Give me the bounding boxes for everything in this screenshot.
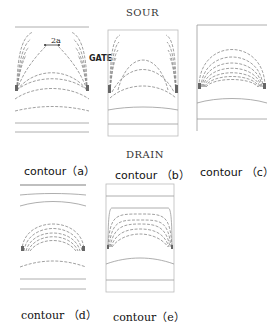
caption-contour-b: contour （b）	[115, 166, 190, 182]
drain-label: DRAIN	[126, 149, 164, 160]
caption-contour-e: contour（e）	[113, 308, 185, 324]
caption-contour-d: contour （d）	[21, 306, 97, 322]
caption-contour-a: contour（a）	[24, 162, 95, 178]
contour-panel-e	[106, 184, 174, 292]
source-label: SOUR	[126, 7, 159, 18]
contour-panel-d	[20, 183, 86, 291]
contour-panel-b	[108, 30, 178, 136]
caption-contour-c: contour （c）	[200, 163, 274, 179]
dimension-2a-label: 2a	[51, 36, 61, 45]
contour-panel-c	[197, 25, 267, 131]
